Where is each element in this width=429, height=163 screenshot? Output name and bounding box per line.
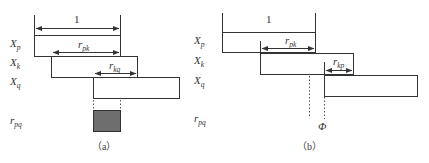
panel-b: Xp Xk Xq rpq 1 rpk rkp Φ （b） [193,13,418,152]
label-rkq: rkq [109,59,121,74]
panel-a: Xp Xk Xq rpq 1 rpk rkq （a） [9,13,180,152]
label-xk: Xk [193,54,205,69]
result-rpq-overlap [94,111,121,132]
box-xq [94,78,180,99]
box-xk [52,57,138,78]
unit-label: 1 [74,13,80,25]
overlap-diagram: Xp Xk Xq rpq 1 rpk rkq （a） Xp Xk Xq rpq [0,0,429,163]
label-rkp: rkp [333,55,345,70]
box-xq [325,76,418,97]
label-rpq: rpq [10,114,22,129]
unit-label: 1 [266,13,272,25]
label-rpq: rpq [194,112,206,127]
caption-a: （a） [92,141,116,152]
label-xq: Xq [9,75,21,90]
caption-b: （b） [297,141,322,152]
label-rpk: rpk [78,38,90,53]
label-rpk: rpk [285,34,297,49]
label-xp: Xp [193,34,205,49]
empty-set-symbol: Φ [318,120,327,132]
label-xk: Xk [9,56,21,71]
label-xq: Xq [193,74,205,89]
box-xp [223,33,316,53]
label-xp: Xp [9,37,21,52]
